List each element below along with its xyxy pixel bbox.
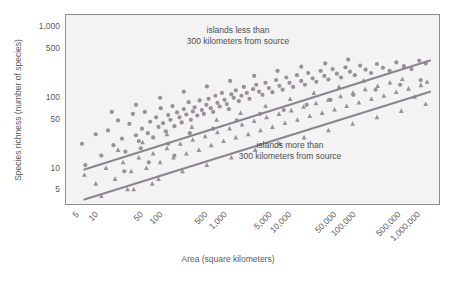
x-tick-label: 5 — [70, 209, 81, 220]
data-point-circle — [419, 78, 423, 82]
data-point-circle — [188, 131, 192, 135]
data-point-circle — [270, 90, 274, 94]
chart-svg: 1,00050010050105 510501005001,0005,00010… — [0, 0, 458, 286]
data-point-circle — [353, 73, 357, 77]
x-tick-label: 50 — [131, 209, 145, 223]
data-point-circle — [154, 115, 158, 119]
data-point-circle — [200, 108, 204, 112]
data-point-circle — [305, 103, 309, 107]
y-axis-tick-labels: 1,00050010050105 — [39, 21, 61, 194]
x-axis-tick-labels: 510501005001,0005,00010,00050,000100,000… — [70, 209, 422, 243]
data-point-circle — [306, 71, 310, 75]
data-point-circle — [358, 63, 362, 67]
x-axis-title: Area (square kilometers) — [181, 254, 274, 264]
data-point-circle — [326, 77, 330, 81]
data-point-circle — [310, 76, 314, 80]
data-point-circle — [275, 69, 279, 73]
data-point-circle — [314, 80, 318, 84]
data-point-circle — [195, 114, 199, 118]
data-point-circle — [239, 94, 243, 98]
data-point-circle — [182, 90, 186, 94]
data-point-circle — [375, 62, 379, 66]
y-tick-label: 5 — [55, 184, 60, 194]
data-point-circle — [189, 118, 193, 122]
data-point-circle — [254, 83, 258, 87]
data-point-circle — [187, 100, 191, 104]
data-point-circle — [323, 61, 327, 65]
data-point-circle — [220, 91, 224, 95]
data-point-circle — [218, 104, 222, 108]
data-point-circle — [299, 65, 303, 69]
data-point-circle — [251, 87, 255, 91]
data-point-circle — [274, 78, 278, 82]
y-tick-label: 100 — [46, 92, 60, 102]
x-tick-label: 10,000 — [268, 209, 294, 235]
data-point-circle — [245, 91, 249, 95]
data-point-circle — [374, 88, 378, 92]
data-point-circle — [172, 124, 176, 128]
data-point-circle — [94, 132, 98, 136]
data-point-circle — [148, 120, 152, 124]
data-point-circle — [166, 113, 170, 117]
data-point-circle — [282, 108, 286, 112]
data-point-circle — [281, 88, 285, 92]
data-point-circle — [263, 81, 267, 85]
data-point-circle — [106, 128, 110, 132]
data-point-circle — [139, 146, 143, 150]
annotation-line: 300 kilometers from source — [239, 151, 342, 161]
data-point-circle — [394, 60, 398, 64]
data-point-circle — [184, 112, 188, 116]
x-tick-label: 10 — [86, 209, 100, 223]
data-point-circle — [83, 163, 87, 167]
data-point-circle — [242, 85, 246, 89]
data-point-circle — [137, 139, 141, 143]
data-point-circle — [170, 104, 174, 108]
annotation-line: islands more than — [256, 140, 323, 150]
data-point-circle — [146, 131, 150, 135]
data-point-circle — [182, 107, 186, 111]
y-tick-label: 500 — [46, 43, 60, 53]
data-point-circle — [398, 83, 402, 87]
data-point-circle — [143, 110, 147, 114]
species-area-chart: 1,00050010050105 510501005001,0005,00010… — [0, 0, 458, 286]
data-point-circle — [417, 58, 421, 62]
annotation-line: islands less than — [207, 25, 270, 35]
y-tick-label: 10 — [51, 163, 61, 173]
data-point-circle — [120, 137, 124, 141]
data-point-circle — [381, 66, 385, 70]
data-point-circle — [158, 96, 162, 100]
data-point-circle — [346, 58, 350, 62]
data-point-circle — [161, 121, 165, 125]
data-point-circle — [237, 99, 241, 103]
data-point-circle — [299, 79, 303, 83]
data-point-circle — [134, 133, 138, 137]
data-point-circle — [147, 160, 151, 164]
data-point-circle — [225, 102, 229, 106]
data-point-circle — [123, 150, 127, 154]
data-point-circle — [369, 71, 373, 75]
data-point-circle — [213, 94, 217, 98]
data-point-circle — [127, 122, 131, 126]
data-point-circle — [277, 84, 281, 88]
data-point-circle — [319, 69, 323, 73]
data-point-circle — [215, 101, 219, 105]
data-point-circle — [257, 90, 261, 94]
data-point-circle — [229, 92, 233, 96]
data-point-circle — [110, 110, 114, 114]
data-point-circle — [193, 105, 197, 109]
data-point-circle — [252, 74, 256, 78]
data-point-circle — [198, 98, 202, 102]
data-point-circle — [191, 109, 195, 113]
data-point-circle — [209, 106, 213, 110]
x-tick-label: 100 — [147, 209, 164, 226]
data-point-circle — [202, 112, 206, 116]
data-point-circle — [287, 81, 291, 85]
data-point-circle — [295, 73, 299, 77]
data-point-circle — [339, 75, 343, 79]
data-point-circle — [291, 85, 295, 89]
data-point-circle — [80, 142, 84, 146]
data-point-circle — [227, 107, 231, 111]
data-point-circle — [232, 96, 236, 100]
data-point-circle — [207, 97, 211, 101]
data-point-circle — [205, 84, 209, 88]
